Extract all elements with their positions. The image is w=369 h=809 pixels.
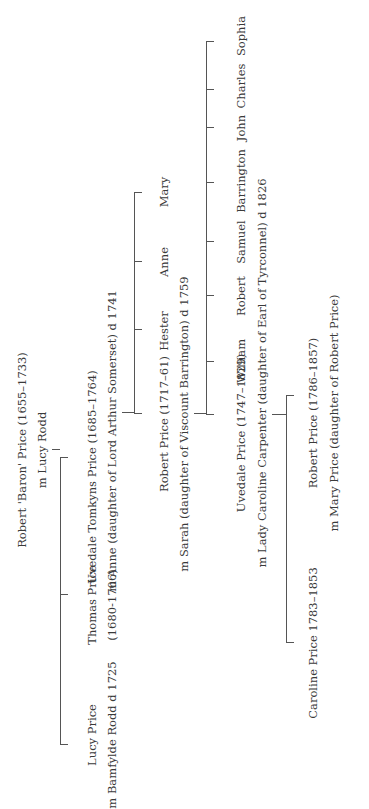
gen2-mary: Mary <box>157 177 171 208</box>
tick-robert <box>206 295 214 296</box>
robert-1717-connector <box>194 413 206 414</box>
gen1-uvedale-tomkyns-name: Uvedale Tomkyns Price (1685–1764) <box>85 370 99 583</box>
gen4-caroline: Caroline Price 1783–1853 <box>306 567 320 718</box>
tick-uvedale-1747 <box>206 414 214 415</box>
gen3-samuel: Samuel <box>234 220 248 264</box>
root-connector <box>52 449 60 450</box>
tick-william <box>206 361 214 362</box>
gen1-sibling-bar <box>60 457 61 745</box>
tick-samuel <box>206 241 214 242</box>
gen3-uvedale-spouse: m Lady Caroline Carpenter (daughter of E… <box>255 178 269 567</box>
gen1-uvedale-tomkyns-spouse: m Anne (daughter of Lord Arthur Somerset… <box>105 290 119 592</box>
tick-robert-1786 <box>286 395 294 396</box>
gen4-sibling-bar <box>286 395 287 643</box>
gen1-lucy-spouse: m Bamfylde Rodd d 1725 <box>105 661 119 808</box>
root-spouse: m Lucy Rodd <box>35 412 49 489</box>
gen4-robert-spouse: m Mary Price (daughter of Robert Price) <box>327 294 341 531</box>
gen2-hester: Hester <box>157 311 171 351</box>
gen3-john: John <box>234 115 248 141</box>
gen3-charles: Charles <box>234 64 248 109</box>
gen2-robert-spouse: m Sarah (daughter of Viscount Barrington… <box>177 276 191 571</box>
gen3-barrington: Barrington <box>234 149 248 213</box>
tick-mary <box>134 192 142 193</box>
tick-hester <box>134 329 142 330</box>
tick-caroline <box>286 642 294 643</box>
tick-robert-1717 <box>134 413 142 414</box>
tick-lucy <box>60 744 68 745</box>
gen1-lucy-name: Lucy Price <box>85 704 99 766</box>
gen3-robert: Robert <box>234 276 248 316</box>
gen4-robert-name: Robert Price (1786–1857) <box>306 338 320 489</box>
gen2-anne: Anne <box>157 247 171 277</box>
gen2-sibling-bar <box>134 192 135 414</box>
gen3-sibling-bar <box>206 41 207 415</box>
uvedale-1747-connector <box>272 414 286 415</box>
uvedale-tomkyns-connector <box>122 412 134 413</box>
gen3-sophia: Sophia <box>234 16 248 56</box>
tick-uvedale-tomkyns <box>60 457 68 458</box>
tick-anne <box>134 261 142 262</box>
tick-sophia <box>206 41 214 42</box>
tick-thomas <box>60 594 68 595</box>
tick-charles <box>206 89 214 90</box>
tick-barrington <box>206 182 214 183</box>
tick-john <box>206 127 214 128</box>
gen3-william: William <box>234 339 248 383</box>
root-name: Robert 'Baron' Price (1655–1733) <box>15 352 29 548</box>
gen2-robert-name: Robert Price (1717–61) <box>157 356 171 492</box>
